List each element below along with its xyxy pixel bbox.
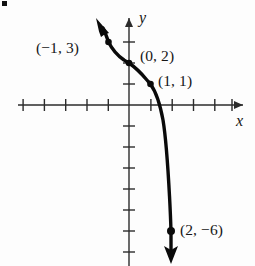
point-label-2-neg6: (2, −6) [180,222,223,238]
y-axis-arrow-icon [125,18,133,27]
point-label-1-1: (1, 1) [158,73,192,89]
point-label-neg1-3: (−1, 3) [36,40,79,56]
point-marker-neg1-3 [105,39,112,46]
point-marker-2-neg6 [167,227,175,235]
point-label-0-2: (0, 2) [140,48,174,64]
corner-mark-icon [2,1,7,6]
point-marker-0-2 [126,60,133,67]
y-axis-label: y [139,10,146,26]
point-marker-1-1 [147,81,154,88]
x-axis-arrow-icon [234,101,243,109]
x-axis-label: x [236,113,243,129]
graph-figure: (−1, 3) (0, 2) (1, 1) (2, −6) y x [0,0,255,266]
y-axis [123,18,135,266]
x-axis [18,99,243,111]
